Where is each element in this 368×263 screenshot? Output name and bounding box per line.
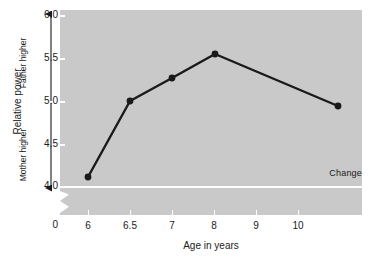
data-line — [88, 54, 338, 177]
data-point-marker — [335, 103, 342, 110]
data-point-marker — [85, 174, 92, 181]
chart-figure: Change 4.0 4.5 5.0 5.5 6.0 0 6 6.5 7 8 9… — [0, 0, 368, 263]
data-point-marker — [212, 51, 219, 58]
data-point-marker — [169, 75, 176, 82]
data-series-relative-power — [0, 0, 368, 263]
data-point-marker — [127, 98, 134, 105]
